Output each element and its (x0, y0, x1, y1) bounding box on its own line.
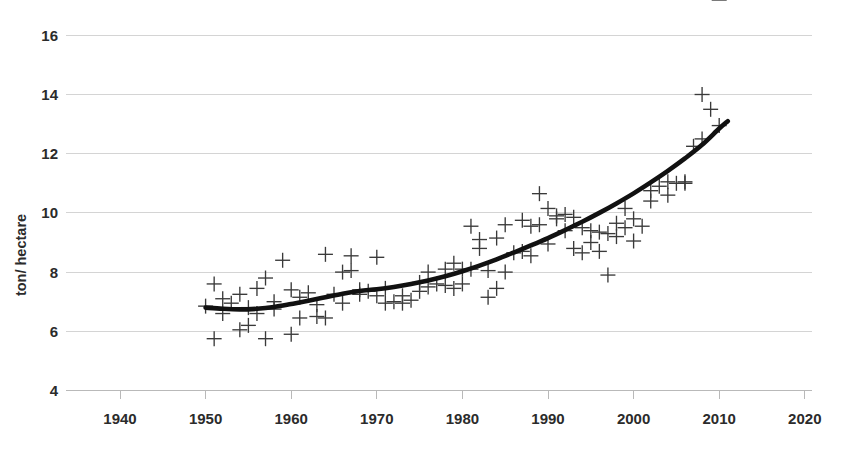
chart-background (0, 0, 847, 464)
y-tick-label-12: 12 (41, 145, 58, 162)
y-tick-label-6: 6 (50, 323, 58, 340)
y-tick-label-14: 14 (41, 86, 58, 103)
y-tick-label-10: 10 (41, 204, 58, 221)
chart-container: 16141210864 1940195019601970198019902000… (0, 0, 847, 464)
y-tick-label-4: 4 (50, 382, 59, 399)
y-tick-label-16: 16 (41, 27, 58, 44)
x-tick-label-1950: 1950 (189, 410, 222, 427)
x-tick-label-1940: 1940 (103, 410, 136, 427)
y-tick-label-8: 8 (50, 264, 58, 281)
x-tick-label-1980: 1980 (446, 410, 479, 427)
x-tick-label-2020: 2020 (788, 410, 821, 427)
x-tick-label-1990: 1990 (531, 410, 564, 427)
x-tick-label-2000: 2000 (617, 410, 650, 427)
x-tick-label-2010: 2010 (703, 410, 736, 427)
x-axis-tick-labels: 194019501960197019801990200020102020 (103, 410, 821, 427)
yield-scatter-chart: 16141210864 1940195019601970198019902000… (0, 0, 847, 464)
x-tick-label-1960: 1960 (275, 410, 308, 427)
x-tick-label-1970: 1970 (360, 410, 393, 427)
y-axis-title: ton/ hectare (13, 214, 29, 296)
